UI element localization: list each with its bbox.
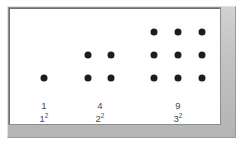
dot-marker: [85, 75, 92, 82]
dot-marker: [41, 75, 48, 82]
group-count-label: 9: [174, 100, 183, 111]
exponent-glyph: 2: [45, 112, 49, 119]
group-label-3: 932: [174, 100, 183, 124]
group-square-label: 12: [40, 113, 49, 124]
exponent-glyph: 2: [179, 112, 183, 119]
dot-array-canvas: 112422932: [0, 0, 243, 145]
group-count-label: 4: [96, 100, 105, 111]
dot-marker: [108, 75, 115, 82]
exponent-glyph: 2: [101, 112, 105, 119]
group-square-label: 22: [96, 113, 105, 124]
dot-marker: [199, 29, 206, 36]
dot-marker: [199, 75, 206, 82]
dot-marker: [151, 75, 158, 82]
dot-marker: [175, 29, 182, 36]
group-label-1: 112: [40, 100, 49, 124]
group-label-2: 422: [96, 100, 105, 124]
group-square-label: 32: [174, 113, 183, 124]
group-count-label: 1: [40, 100, 49, 111]
dot-marker: [151, 52, 158, 59]
dot-marker: [175, 52, 182, 59]
dot-marker: [199, 52, 206, 59]
dot-marker: [108, 52, 115, 59]
dot-marker: [175, 75, 182, 82]
square-numbers-figure: 112422932: [0, 0, 243, 145]
dot-marker: [85, 52, 92, 59]
dot-marker: [151, 29, 158, 36]
